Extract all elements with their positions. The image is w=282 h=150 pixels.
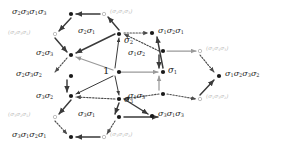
graph-node-g_right_lower[interactable] — [198, 97, 201, 100]
node-label-n_s3s1s2s1: σ3σ1σ2σ1 — [12, 131, 47, 139]
edge-left-lower-ghost-to-s3s1s2s1 — [55, 121, 67, 134]
graph-node-n_s1[interactable] — [161, 70, 165, 74]
node-label-n_s3s1s3: σ3σ1σ3 — [158, 110, 184, 118]
node-label-n_s3s2: σ3σ2 — [36, 92, 53, 100]
node-label-n_s2s3s2: σ2σ3σ2 — [16, 70, 42, 78]
node-label-g_left_upper: (σ2σ3σ1) — [8, 30, 31, 36]
edge-identity-to-s2 — [115, 38, 119, 68]
edge-right-upper-ghost-to-s1s2s3s2 — [200, 55, 214, 72]
edge-left-upper-ghost-to-s2s3 — [55, 38, 67, 52]
graph-node-g_bottom[interactable] — [102, 135, 105, 138]
edge-identity-to-s3 — [115, 76, 119, 95]
edge-s2-to-s2s3 — [76, 34, 115, 53]
edge-s3-to-s3s2 — [76, 97, 115, 99]
node-label-n_s3s1: σ3σ1 — [78, 110, 95, 118]
graph-node-n_s3s2[interactable] — [69, 94, 73, 98]
graph-node-g_top[interactable] — [102, 12, 105, 15]
graph-node-n_s2[interactable] — [117, 32, 121, 36]
node-label-n_s2s3s1s3: σ2σ3σ1σ3 — [12, 8, 47, 16]
graph-node-n_s3s1s2s1[interactable] — [69, 135, 73, 139]
graph-node-g_left_lower[interactable] — [53, 115, 56, 118]
node-label-n_s1s2s3s2: σ1σ2σ3σ2 — [225, 70, 260, 78]
edge-s3s2-to-left-lower-ghost — [59, 100, 71, 114]
graph-node-n_s2s3s1s3[interactable] — [69, 12, 73, 16]
edge-s2s1-to-top-ghost — [108, 17, 119, 30]
graph-node-n_s1s2s1[interactable] — [150, 31, 154, 35]
graph-node-g_right_upper[interactable] — [198, 49, 201, 52]
edge-s2s3s1s3-to-left-upper-ghost — [59, 18, 71, 31]
node-label-g_left_lower: (σ3σ2σ1) — [8, 112, 31, 118]
edge-s3-to-s3s1 — [115, 103, 119, 114]
node-label-n_s1s2: σ1σ2 — [128, 49, 145, 57]
graph-node-n_identity[interactable] — [117, 70, 121, 74]
node-label-n_s2: σ2 — [124, 36, 133, 45]
graph-node-n_s1s2[interactable] — [161, 49, 165, 53]
edge-s2s3-to-s2s3s2 — [55, 58, 67, 72]
edge-identity-to-s3s2 — [76, 76, 113, 94]
edge-s1s3-to-right-lower-ghost — [167, 94, 196, 99]
node-label-n_s1: σ1 — [168, 66, 177, 75]
node-label-g_right_upper: (σ1σ4σ3) — [206, 46, 229, 52]
graph-node-n_s1s2s3s2[interactable] — [217, 74, 221, 78]
node-label-g_right_lower: (σ1σ3σ2) — [206, 94, 229, 100]
node-label-n_s2s3: σ2σ3 — [36, 49, 53, 57]
node-label-n_s1s2s1: σ1σ2σ1 — [158, 27, 184, 35]
node-label-n_s2s1: σ2σ1 — [78, 27, 95, 35]
node-label-n_s1s3: σ1σ3 — [128, 92, 145, 100]
node-label-g_bottom: (σ3σ1σ2) — [110, 132, 133, 138]
graph-node-n_s1s3[interactable] — [161, 92, 165, 96]
node-label-n_identity: 1 — [103, 66, 109, 76]
graph-node-n_s2s3[interactable] — [69, 53, 73, 57]
node-label-g_top: (σ2σ1σ3) — [110, 9, 133, 15]
graph-node-n_s2s3s2[interactable] — [69, 74, 73, 78]
graph-node-n_s3s1[interactable] — [117, 115, 121, 119]
graph-node-n_s3[interactable] — [117, 97, 121, 101]
graph-node-g_left_upper[interactable] — [53, 32, 56, 35]
graph-node-n_s3s1s3[interactable] — [150, 114, 154, 118]
diagram-canvas: 1σ2σ3σ1σ2σ1σ2σ3σ3σ2σ3σ1σ1σ2σ1σ3σ1σ2σ1σ3σ… — [0, 0, 282, 150]
